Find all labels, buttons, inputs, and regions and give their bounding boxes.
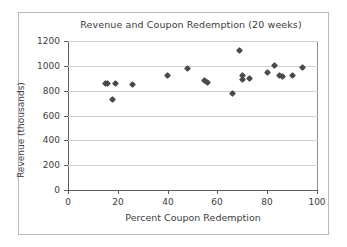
y-tick-mark (64, 91, 68, 92)
y-tick-label: 800 (26, 87, 60, 96)
gridline-y (68, 116, 318, 117)
x-tick-label: 60 (202, 198, 232, 207)
gridline-y (68, 140, 318, 141)
x-tick-label: 0 (53, 198, 83, 207)
y-tick-label: 200 (26, 161, 60, 170)
x-tick-label: 80 (252, 198, 282, 207)
y-axis-label: Revenue (thousands) (16, 82, 26, 178)
gridline-y (68, 41, 318, 42)
x-tick-label: 20 (103, 198, 133, 207)
y-tick-mark (64, 116, 68, 117)
x-tick-mark (217, 190, 218, 194)
x-axis-line (68, 190, 318, 191)
y-tick-label: 400 (26, 136, 60, 145)
x-tick-label: 40 (153, 198, 183, 207)
x-tick-mark (118, 190, 119, 194)
chart-title: Revenue and Coupon Redemption (20 weeks) (60, 19, 322, 30)
y-tick-mark (64, 41, 68, 42)
y-tick-label: 1200 (26, 37, 60, 46)
x-tick-mark (267, 190, 268, 194)
y-tick-mark (64, 66, 68, 67)
x-tick-mark (68, 190, 69, 194)
chart-figure: Revenue and Coupon Redemption (20 weeks)… (0, 0, 347, 247)
x-tick-mark (168, 190, 169, 194)
x-tick-label: 100 (302, 198, 332, 207)
gridline-y (68, 91, 318, 92)
x-tick-mark (317, 190, 318, 194)
y-tick-label: 1000 (26, 62, 60, 71)
gridline-y (68, 165, 318, 166)
y-tick-mark (64, 140, 68, 141)
gridline-y (68, 66, 318, 67)
x-axis-label: Percent Coupon Redemption (68, 212, 318, 223)
y-tick-label: 0 (26, 186, 60, 195)
y-tick-mark (64, 165, 68, 166)
y-tick-label: 600 (26, 112, 60, 121)
